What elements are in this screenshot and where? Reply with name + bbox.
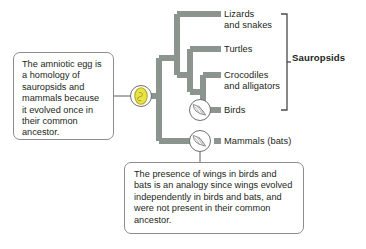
taxon-label-birds: Birds bbox=[224, 105, 245, 116]
callout-amniotic-egg: The amniotic egg is a homology of saurop… bbox=[13, 52, 114, 140]
taxon-label-lizards: Lizards and snakes bbox=[224, 9, 272, 30]
tree-tip-markers bbox=[214, 11, 221, 144]
wing-icon-mammals bbox=[190, 131, 211, 152]
phylogenetic-tree-figure: Lizards and snakes Turtles Crocodiles an… bbox=[0, 0, 366, 249]
taxon-label-crocodiles: Crocodiles and alligators bbox=[224, 70, 280, 91]
tip-square-turtles bbox=[214, 46, 221, 52]
tip-square-crocs bbox=[214, 72, 221, 78]
egg-icon-shell bbox=[135, 88, 147, 104]
sauropsids-bracket bbox=[281, 14, 291, 110]
clade-label-sauropsids: Sauropsids bbox=[292, 52, 345, 63]
wing-icon-birds bbox=[190, 100, 211, 121]
taxon-label-mammals: Mammals (bats) bbox=[224, 136, 291, 147]
taxon-label-turtles: Turtles bbox=[224, 44, 252, 55]
egg-icon bbox=[131, 86, 152, 107]
tree-branches bbox=[151, 14, 218, 141]
tip-square-mammals bbox=[214, 138, 221, 144]
tip-square-lizards bbox=[214, 11, 221, 17]
sauropsids-bracket-shape bbox=[281, 14, 287, 110]
callout-wings-analogy: The presence of wings in birds and bats … bbox=[124, 162, 304, 234]
tip-square-birds bbox=[214, 107, 221, 113]
